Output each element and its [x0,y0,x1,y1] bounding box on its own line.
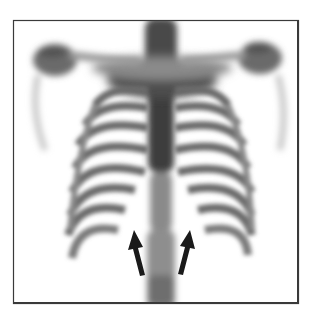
bone-scan-image [0,0,313,320]
right-ribs [175,89,252,255]
left-arrow-icon [128,230,145,276]
left-ribs [68,89,148,258]
right-arrow-icon [178,230,195,275]
